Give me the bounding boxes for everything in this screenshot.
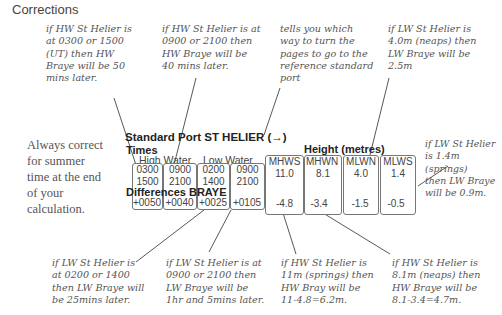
annotation-hw-0900: if HW St Helier is at 0900 or 2100 then … bbox=[162, 23, 261, 72]
annotation-line: be 25mins later. bbox=[52, 294, 144, 306]
annotation-line: 40 mins later. bbox=[162, 60, 261, 72]
time-value: 0200 bbox=[198, 164, 229, 175]
height-column-name: MLWN bbox=[343, 156, 379, 167]
annotation-line: if HW St Helier is bbox=[46, 23, 132, 35]
height-value: 1.4 bbox=[380, 168, 416, 179]
time-difference: +0025 bbox=[197, 197, 229, 208]
annotation-lw-0200: if LW St Helier is at 0200 or 1400 then … bbox=[52, 257, 144, 306]
annotation-line: tells you which bbox=[280, 23, 373, 35]
annotation-line: 8.1m (neaps) then bbox=[392, 269, 480, 281]
height-difference: -0.5 bbox=[378, 198, 414, 209]
annotation-line: 11m (springs) then bbox=[281, 269, 374, 281]
annotation-line: LW Braye will be bbox=[388, 48, 476, 60]
height-difference: -4.8 bbox=[265, 198, 304, 209]
annotation-line: 4.0m (neaps) then bbox=[388, 35, 476, 47]
height-difference: -3.4 bbox=[300, 198, 338, 209]
height-column-name: MHWS bbox=[265, 156, 304, 167]
time-value: 0900 bbox=[231, 164, 264, 175]
annotation-line: HW Braye will be bbox=[392, 282, 480, 294]
annotation-line: LW Braye will be bbox=[166, 282, 264, 294]
annotation-line: way to turn the bbox=[280, 35, 373, 47]
time-value: 0900 bbox=[164, 164, 196, 175]
annotation-line: Braye will be 50 bbox=[46, 60, 132, 72]
annotation-line: HW Bray will be bbox=[281, 282, 374, 294]
annotation-line: if HW St Helier is bbox=[392, 257, 480, 269]
annotation-line: at 0300 or 1500 bbox=[46, 35, 132, 47]
note-line: time at the end bbox=[27, 169, 103, 185]
annotation-line: if HW St Helier is at bbox=[162, 23, 261, 35]
height-value: 4.0 bbox=[343, 168, 379, 179]
page-title: Corrections bbox=[12, 2, 78, 17]
annotation-line: 0900 or 2100 then bbox=[166, 269, 264, 281]
annotation-line: will be 0.9m. bbox=[425, 187, 502, 199]
annotation-line: if LW St Helier is at bbox=[166, 257, 264, 269]
annotation-line: (UT) then HW bbox=[46, 48, 132, 60]
note-line: of your bbox=[27, 185, 103, 201]
annotation-hw-0300: if HW St Helier is at 0300 or 1500 (UT) … bbox=[46, 23, 132, 84]
height-value: 11.0 bbox=[265, 168, 304, 179]
annotation-lw-0900: if LW St Helier is at 0900 or 2100 then … bbox=[166, 257, 264, 306]
note-line: calculation. bbox=[27, 201, 103, 217]
annotation-arrow: tells you which way to turn the pages to… bbox=[280, 23, 373, 84]
annotation-line: if LW St Helier is bbox=[388, 23, 476, 35]
annotation-hw-springs: if HW St Helier is 11m (springs) then HW… bbox=[281, 257, 374, 306]
annotation-line: pages to go to the bbox=[280, 48, 373, 60]
height-column-name: MHWN bbox=[303, 156, 341, 167]
annotation-line: 1hr and 5mins later. bbox=[166, 294, 264, 306]
summer-time-note: Always correct for summer time at the en… bbox=[27, 137, 103, 217]
annotation-line: HW Braye will be bbox=[162, 48, 261, 60]
standard-port-header: Standard Port ST HELIER (→) bbox=[125, 131, 287, 143]
annotation-line: 2.5m bbox=[388, 60, 476, 72]
time-difference: +0105 bbox=[230, 197, 264, 208]
annotation-line: if LW St Helier bbox=[425, 138, 502, 150]
time-difference: +0050 bbox=[132, 197, 162, 208]
annotation-lw-neaps: if LW St Helier is 4.0m (neaps) then LW … bbox=[388, 23, 476, 72]
annotation-line: if HW St Helier is bbox=[281, 257, 374, 269]
time-difference: +0040 bbox=[163, 197, 196, 208]
annotation-line: then LW Braye bbox=[425, 175, 502, 187]
note-line: for summer bbox=[27, 153, 103, 169]
time-value: 0300 bbox=[133, 164, 162, 175]
annotation-line: if LW St Helier is bbox=[52, 257, 144, 269]
annotation-line: then LW Braye will bbox=[52, 282, 144, 294]
height-difference: -1.5 bbox=[342, 198, 378, 209]
annotation-line: is 1.4m (springs) bbox=[425, 150, 502, 175]
height-value: 8.1 bbox=[304, 168, 342, 179]
annotation-line: port bbox=[280, 72, 373, 84]
annotation-lw-springs: if LW St Helier is 1.4m (springs) then L… bbox=[425, 138, 502, 199]
annotation-line: 0900 or 2100 then bbox=[162, 35, 261, 47]
height-label: Height (metres) bbox=[304, 143, 385, 155]
annotation-line: mins later. bbox=[46, 72, 132, 84]
note-line: Always correct bbox=[27, 137, 103, 153]
annotation-line: at 0200 or 1400 bbox=[52, 269, 144, 281]
annotation-line: reference standard bbox=[280, 60, 373, 72]
time-value: 2100 bbox=[231, 176, 264, 187]
annotation-line: 8.1-3.4=4.7m. bbox=[392, 294, 480, 306]
height-column-name: MLWS bbox=[380, 156, 416, 167]
annotation-line: 11-4.8=6.2m. bbox=[281, 294, 374, 306]
annotation-hw-neaps: if HW St Helier is 8.1m (neaps) then HW … bbox=[392, 257, 480, 306]
